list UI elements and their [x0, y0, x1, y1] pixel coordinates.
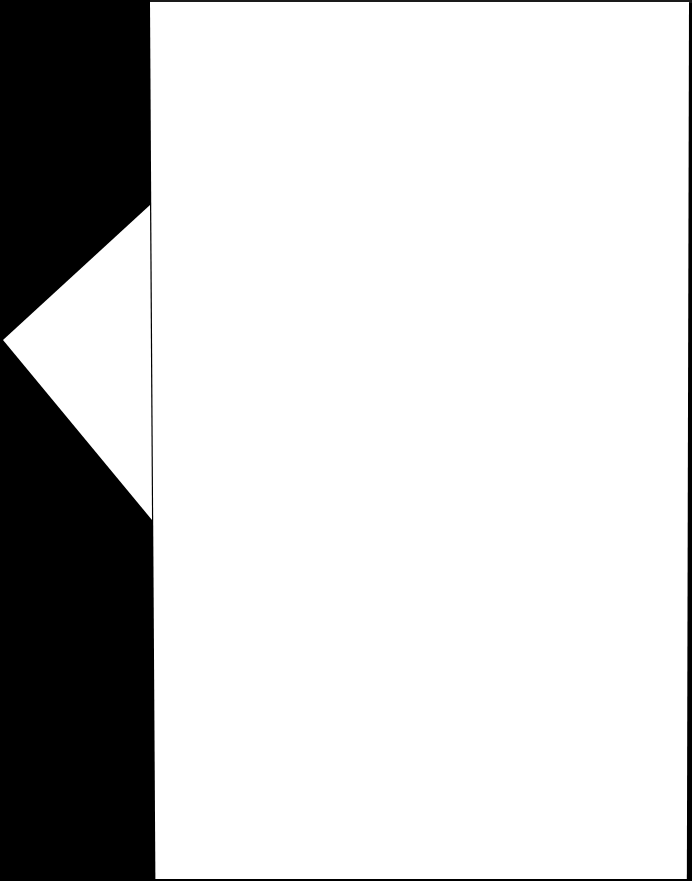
page-content	[150, 2, 689, 879]
scanned-document	[0, 0, 692, 881]
blank-page	[150, 2, 689, 879]
